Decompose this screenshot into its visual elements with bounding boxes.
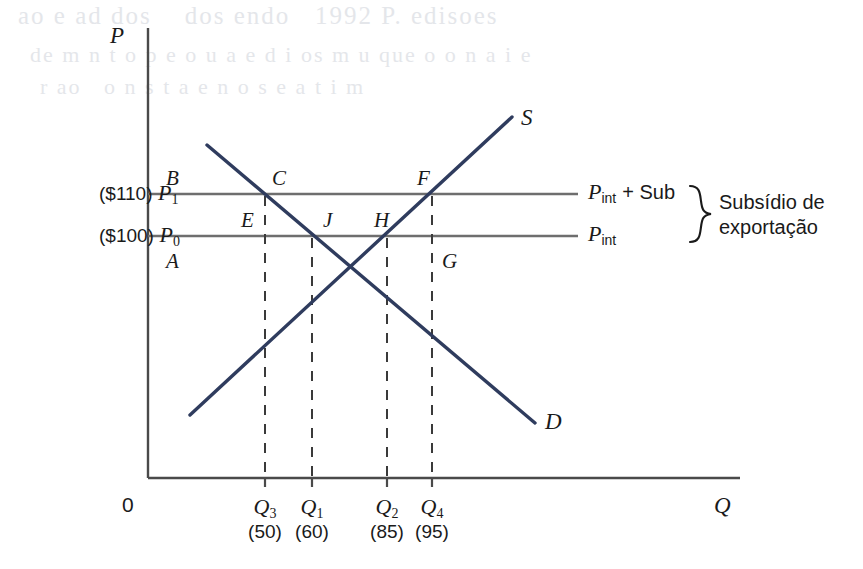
quantity-dashed-lines-group	[265, 196, 432, 478]
export-subsidy-figure: ao e ad dos dos endo 1992 P. edisoes de …	[0, 0, 863, 569]
point-label-c: C	[272, 168, 286, 189]
point-label-f: F	[417, 168, 430, 189]
point-label-j: J	[323, 210, 332, 231]
x-tick-label-q4: Q4 (95)	[402, 494, 462, 543]
x-tick-value-q4: (95)	[402, 521, 462, 543]
diagram-canvas	[0, 0, 863, 569]
supply-curve-label: S	[521, 106, 533, 129]
price-subscript-p0: 0	[173, 234, 180, 249]
demand-curve	[207, 145, 535, 423]
price-symbol-p0: P	[159, 222, 172, 247]
y-axis-label: P	[110, 24, 124, 47]
axis-ticks-group	[265, 478, 432, 487]
pint-symbol-upper: P	[588, 179, 601, 204]
pint-subscript-upper: int	[601, 190, 616, 206]
price-value-p1: ($110)	[99, 183, 153, 204]
origin-label: 0	[122, 494, 134, 515]
point-label-e: E	[241, 210, 254, 231]
brace-icon	[690, 186, 711, 242]
pint-subscript-lower: int	[601, 232, 616, 248]
point-label-b: B	[166, 168, 179, 189]
point-label-h: H	[374, 210, 389, 231]
demand-curve-label: D	[545, 410, 562, 433]
x-tick-symbol-q1: Q1	[282, 494, 342, 519]
export-subsidy-annotation: Subsídio de exportação	[719, 190, 825, 240]
point-label-g: G	[442, 251, 457, 272]
point-label-a: A	[166, 251, 179, 272]
export-subsidy-line2: exportação	[719, 215, 825, 240]
x-tick-value-q1: (60)	[282, 521, 342, 543]
x-tick-symbol-q4: Q4	[402, 494, 462, 519]
price-value-p0: ($100)	[99, 225, 154, 246]
price-lines-group	[148, 194, 578, 236]
subsidy-brace-group	[690, 186, 711, 242]
price-line-label-pint: Pint	[588, 223, 616, 245]
pint-symbol-lower: P	[588, 221, 601, 246]
price-label-p0: ($100) P0	[99, 224, 180, 246]
x-tick-label-q1: Q1 (60)	[282, 494, 342, 543]
price-line-label-pint-plus-sub: Pint+ Sub	[588, 181, 675, 203]
pint-plus-sub-suffix: + Sub	[622, 181, 675, 203]
x-axis-label: Q	[714, 494, 731, 517]
curves-group	[190, 117, 535, 423]
price-subscript-p1: 1	[171, 192, 178, 207]
export-subsidy-line1: Subsídio de	[719, 190, 825, 215]
